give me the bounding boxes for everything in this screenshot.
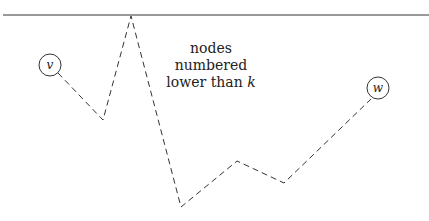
node-v-label: v xyxy=(39,54,61,76)
region-label: nodes numbered lower than k xyxy=(156,40,266,91)
region-label-line2: lower than k xyxy=(156,74,266,91)
diagram-canvas xyxy=(0,0,429,221)
node-w-label: w xyxy=(367,77,389,99)
region-label-prefix: lower than xyxy=(166,74,247,90)
region-label-line1: nodes numbered xyxy=(156,40,266,74)
region-label-variable: k xyxy=(247,74,255,90)
